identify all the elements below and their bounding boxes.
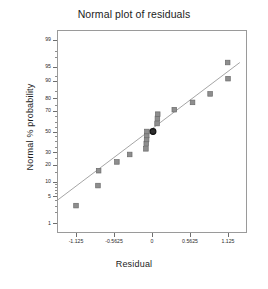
x-tick-mark <box>76 233 77 237</box>
data-point <box>127 152 132 157</box>
data-point <box>145 129 150 134</box>
data-point <box>74 203 79 208</box>
data-point <box>155 121 160 126</box>
x-axis-title: Residual <box>0 259 268 269</box>
x-tick-label: -1.125 <box>59 239 93 244</box>
data-point <box>172 107 177 112</box>
data-point <box>144 147 149 152</box>
chart-title: Normal plot of residuals <box>0 8 268 20</box>
x-tick-mark <box>114 233 115 237</box>
y-tick-label: 95 <box>35 64 51 69</box>
x-tick-mark <box>152 233 153 237</box>
y-tick-label: 10 <box>35 179 51 184</box>
normal-probability-plot-figure: Normal plot of residuals 151020305070809… <box>0 0 268 289</box>
y-axis-title: Normal % probability <box>25 52 35 202</box>
y-tick-label: 5 <box>35 194 51 199</box>
data-point <box>190 100 195 105</box>
y-tick-label: 30 <box>35 150 51 155</box>
data-point <box>226 76 231 81</box>
data-point <box>96 168 101 173</box>
x-tick-mark <box>228 233 229 237</box>
highlighted-data-point <box>150 129 156 135</box>
x-tick-label: 1.125 <box>211 239 245 244</box>
data-markers <box>74 60 231 208</box>
x-tick-label: -0.5625 <box>97 239 131 244</box>
data-point <box>208 92 213 97</box>
y-tick-label: 70 <box>35 108 51 113</box>
y-tick-label: 99 <box>35 37 51 42</box>
y-tick-label: 1 <box>35 221 51 226</box>
data-point <box>96 183 101 188</box>
x-tick-mark <box>190 233 191 237</box>
x-tick-label: 0.5625 <box>173 239 207 244</box>
data-point <box>225 60 230 65</box>
y-tick-label: 50 <box>35 129 51 134</box>
x-tick-label: 0 <box>135 239 169 244</box>
y-tick-label: 90 <box>35 78 51 83</box>
data-point <box>155 112 160 117</box>
y-tick-label: 80 <box>35 96 51 101</box>
data-point <box>115 160 120 165</box>
y-tick-label: 20 <box>35 162 51 167</box>
plot-canvas <box>57 30 247 233</box>
